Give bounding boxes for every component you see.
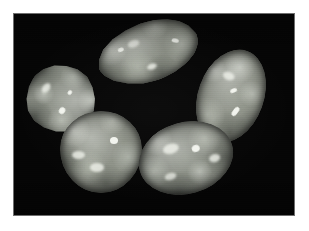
stone-bottom-right-oval — [130, 110, 242, 206]
stone-edge-falloff — [89, 14, 207, 97]
stone-highlight — [72, 151, 85, 159]
stone-highlight — [110, 137, 118, 144]
photograph — [14, 14, 294, 215]
stone-top-teardrop — [89, 14, 207, 97]
stone-highlight — [90, 163, 104, 172]
stone-bottom-left-dome — [60, 111, 142, 193]
photo-page: Five polished tumbled gemstone cabochons… — [0, 0, 309, 231]
